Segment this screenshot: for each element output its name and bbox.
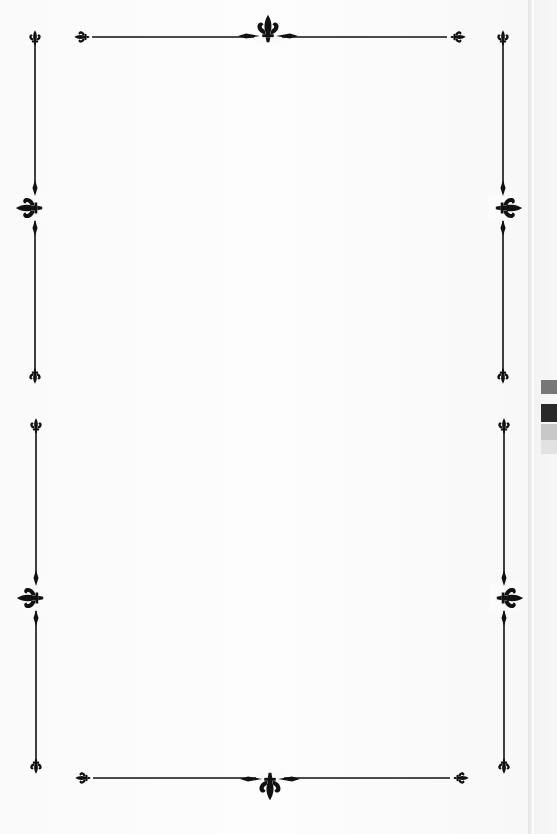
fleur-de-lis-icon	[451, 31, 466, 42]
fleur-de-lis-icon	[29, 369, 40, 384]
fleur-de-lis-icon	[75, 772, 90, 783]
fleur-de-lis-icon	[498, 759, 509, 774]
diamond-icon	[34, 610, 39, 626]
diamond-icon	[501, 220, 506, 236]
left-upper-border	[16, 30, 50, 383]
fleur-de-lis-icon	[240, 773, 300, 801]
fleur-de-lis-icon	[497, 30, 508, 45]
page-content	[60, 70, 480, 760]
fleur-de-lis-icon	[74, 31, 89, 42]
right-lower-border	[489, 418, 523, 773]
fleur-de-lis-icon	[30, 418, 41, 433]
diamond-icon	[33, 220, 38, 236]
top-border	[74, 15, 465, 44]
fleur-de-lis-icon	[454, 772, 469, 783]
left-lower-border	[17, 418, 51, 773]
diamond-icon	[502, 610, 507, 626]
bottom-border	[75, 771, 468, 800]
fleur-de-lis-icon	[238, 15, 298, 43]
right-upper-border	[488, 30, 522, 383]
fleur-de-lis-icon	[30, 759, 41, 774]
fleur-de-lis-icon	[497, 369, 508, 384]
fleur-de-lis-icon	[29, 30, 40, 45]
fleur-de-lis-icon	[498, 418, 509, 433]
